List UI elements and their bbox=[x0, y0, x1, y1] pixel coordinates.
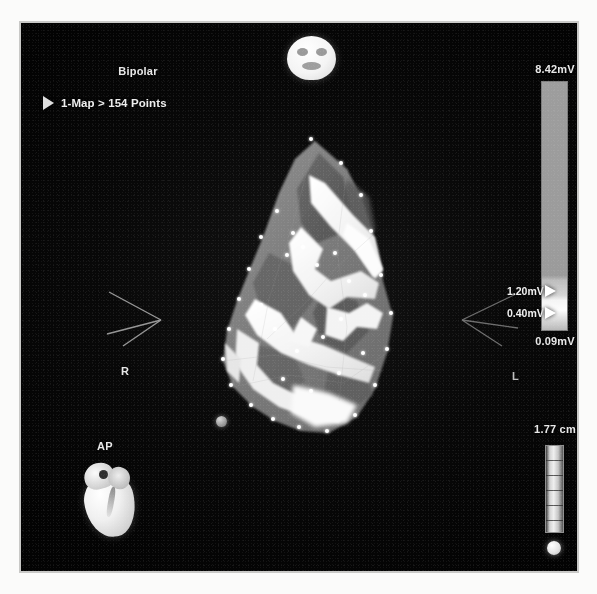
map-point[interactable] bbox=[309, 389, 313, 393]
voltage-scale-max-label: 8.42mV bbox=[512, 63, 577, 75]
head-face-icon bbox=[283, 28, 340, 80]
map-point[interactable] bbox=[333, 251, 337, 255]
map-point[interactable] bbox=[291, 231, 295, 235]
map-point[interactable] bbox=[353, 413, 357, 417]
head-icon-mouth bbox=[302, 62, 321, 70]
threshold-arrow-icon[interactable] bbox=[545, 307, 556, 319]
gauge-tick bbox=[546, 490, 563, 491]
map-point[interactable] bbox=[259, 235, 263, 239]
map-type-label: Bipolar bbox=[83, 65, 193, 77]
map-point[interactable] bbox=[373, 383, 377, 387]
gauge-tick bbox=[546, 460, 563, 461]
orientation-label-right: R bbox=[121, 365, 129, 377]
head-icon-eye-right bbox=[316, 48, 327, 56]
screenshot-root: Bipolar 1-Map > 154 Points bbox=[0, 0, 597, 594]
map-point[interactable] bbox=[271, 417, 275, 421]
map-point[interactable] bbox=[347, 279, 351, 283]
voltage-lower-threshold-marker[interactable]: 0.40mV bbox=[507, 307, 556, 319]
play-triangle-icon[interactable] bbox=[43, 96, 54, 110]
map-point[interactable] bbox=[389, 311, 393, 315]
orientation-axis-right bbox=[93, 288, 165, 350]
gauge-tick bbox=[546, 520, 563, 521]
map-tree-label: 1-Map > 154 Points bbox=[61, 97, 167, 109]
map-point[interactable] bbox=[259, 303, 263, 307]
map-point[interactable] bbox=[227, 327, 231, 331]
map-point[interactable] bbox=[379, 273, 383, 277]
map-point[interactable] bbox=[301, 245, 305, 249]
orientation-label-ap: AP bbox=[97, 440, 113, 452]
head-icon-eye-left bbox=[297, 48, 308, 56]
gauge-tick bbox=[546, 475, 563, 476]
map-point[interactable] bbox=[339, 317, 343, 321]
map-point[interactable] bbox=[275, 209, 279, 213]
map-point[interactable] bbox=[273, 327, 277, 331]
map-point[interactable] bbox=[385, 347, 389, 351]
map-point[interactable] bbox=[285, 253, 289, 257]
threshold-arrow-icon[interactable] bbox=[545, 285, 556, 297]
voltage-scale-min-label: 0.09mV bbox=[512, 335, 577, 347]
map-point[interactable] bbox=[249, 403, 253, 407]
mesh-geometry bbox=[197, 131, 415, 443]
map-point[interactable] bbox=[363, 293, 367, 297]
map-point[interactable] bbox=[281, 377, 285, 381]
map-viewport[interactable]: Bipolar 1-Map > 154 Points bbox=[21, 23, 577, 571]
head-icon-skull bbox=[287, 36, 336, 80]
map-point[interactable] bbox=[321, 335, 325, 339]
map-point[interactable] bbox=[361, 351, 365, 355]
map-point[interactable] bbox=[297, 425, 301, 429]
heart-icon[interactable] bbox=[77, 453, 147, 543]
map-point[interactable] bbox=[229, 383, 233, 387]
map-point[interactable] bbox=[339, 161, 343, 165]
voltage-upper-threshold-marker[interactable]: 1.20mV bbox=[507, 285, 556, 297]
map-point[interactable] bbox=[237, 297, 241, 301]
slider-knob-icon[interactable] bbox=[547, 541, 561, 555]
map-point[interactable] bbox=[315, 263, 319, 267]
map-point[interactable] bbox=[359, 193, 363, 197]
heart-icon-notch bbox=[99, 470, 108, 479]
size-gauge[interactable]: 1.77 cm bbox=[512, 423, 577, 568]
size-gauge-bar[interactable] bbox=[545, 445, 564, 533]
gauge-tick bbox=[546, 505, 563, 506]
map-point[interactable] bbox=[369, 229, 373, 233]
map-point[interactable] bbox=[221, 357, 225, 361]
map-point[interactable] bbox=[295, 349, 299, 353]
map-point[interactable] bbox=[337, 371, 341, 375]
size-gauge-value-label: 1.77 cm bbox=[512, 423, 577, 435]
map-point[interactable] bbox=[309, 137, 313, 141]
catheter-tip-marker[interactable] bbox=[216, 416, 227, 427]
map-tree-row[interactable]: 1-Map > 154 Points bbox=[43, 96, 167, 110]
voltage-map-mesh[interactable] bbox=[197, 131, 415, 443]
map-point[interactable] bbox=[247, 267, 251, 271]
viewport-frame: Bipolar 1-Map > 154 Points bbox=[19, 21, 579, 573]
voltage-color-scale[interactable]: 8.42mV 1.20mV 0.40mV 0.09mV bbox=[512, 63, 577, 353]
voltage-lower-threshold-label: 0.40mV bbox=[507, 307, 544, 319]
voltage-upper-threshold-label: 1.20mV bbox=[507, 285, 544, 297]
map-point[interactable] bbox=[325, 429, 329, 433]
orientation-label-left: L bbox=[512, 370, 519, 382]
